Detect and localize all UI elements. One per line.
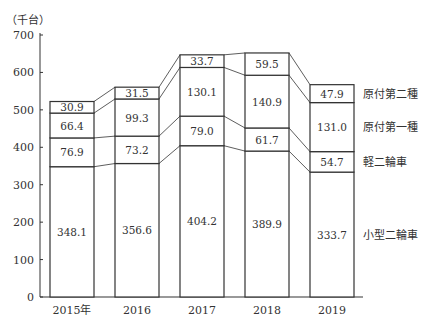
value-label: 61.7 xyxy=(255,134,278,146)
y-tick-label: 700 xyxy=(13,29,34,42)
connector-line xyxy=(159,146,180,164)
value-label: 131.0 xyxy=(317,121,347,133)
y-tick-label: 600 xyxy=(13,66,34,79)
connector-line xyxy=(224,67,245,75)
stacked-bar-chart: （千台）0100200300400500600700348.176.966.43… xyxy=(0,0,428,325)
connector-line xyxy=(94,87,115,101)
value-label: 59.5 xyxy=(255,58,278,70)
connector-line xyxy=(94,136,115,138)
value-label: 76.9 xyxy=(60,146,83,158)
value-label: 356.6 xyxy=(122,224,152,236)
connector-line xyxy=(159,55,180,87)
value-label: 73.2 xyxy=(125,144,148,156)
legend-label: 小型二輪車 xyxy=(363,228,418,242)
value-label: 31.5 xyxy=(125,87,148,99)
value-label: 140.9 xyxy=(252,96,282,108)
connector-line xyxy=(289,151,310,172)
value-label: 130.1 xyxy=(187,86,217,98)
x-tick-label: 2016 xyxy=(123,304,151,317)
value-label: 47.9 xyxy=(320,88,343,100)
connector-line xyxy=(94,99,115,113)
connector-line xyxy=(159,67,180,99)
x-tick-label: 2019 xyxy=(318,304,346,317)
value-label: 54.7 xyxy=(320,156,343,168)
connector-line xyxy=(159,116,180,136)
value-label: 33.7 xyxy=(190,55,213,67)
connector-line xyxy=(94,164,115,167)
legend-label: 軽二輪車 xyxy=(363,155,407,169)
value-label: 389.9 xyxy=(252,218,282,230)
x-tick-label: 2018 xyxy=(253,304,281,317)
connector-line xyxy=(224,146,245,151)
y-tick-label: 200 xyxy=(13,216,34,229)
value-label: 333.7 xyxy=(317,229,347,241)
x-tick-label: 2017 xyxy=(188,304,216,317)
value-label: 30.9 xyxy=(60,101,83,113)
value-label: 66.4 xyxy=(60,120,84,132)
value-label: 348.1 xyxy=(57,226,87,238)
y-tick-label: 400 xyxy=(13,141,34,154)
value-label: 99.3 xyxy=(125,112,148,124)
legend-label: 原付第二種 xyxy=(363,87,418,101)
value-label: 79.0 xyxy=(190,125,213,137)
connector-line xyxy=(289,128,310,152)
y-tick-label: 100 xyxy=(13,254,34,267)
legend-label: 原付第一種 xyxy=(363,120,418,134)
connector-line xyxy=(224,116,245,128)
connector-line xyxy=(224,53,245,55)
y-tick-label: 300 xyxy=(13,179,34,192)
x-tick-label: 2015年 xyxy=(53,303,92,317)
y-tick-label: 0 xyxy=(27,291,34,304)
y-tick-label: 500 xyxy=(13,104,34,117)
value-label: 404.2 xyxy=(187,215,217,227)
y-unit-label: （千台） xyxy=(6,13,50,27)
